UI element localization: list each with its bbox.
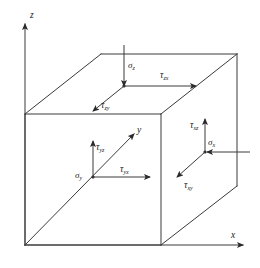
axis-group [25,24,243,245]
tau-yx-label: τyx [120,164,129,175]
edge-top-left-oblique [25,54,101,114]
tau-xz-label: τxz [190,120,199,131]
front-face-stresses: τyz σy τyx [75,141,150,181]
y-axis-line [25,134,134,245]
edge-bottom-right-oblique [161,186,237,245]
tau-zx-label: τzx [160,70,169,81]
right-face-stresses: τxz σx τxy [177,119,250,191]
tau-xy-label: τxy [184,180,193,191]
sigma-z-label: σz [128,60,135,71]
tau-yz-label: τyz [96,142,105,153]
stress-cube-diagram: σz τzx τzy τyz σy τyx [0,0,260,268]
tau-xy-arrow [177,152,205,177]
tau-zy-label: τzy [101,100,110,111]
z-axis-label: z [29,10,34,20]
edge-top-right-oblique [161,54,237,114]
sigma-y-label: σy [75,170,82,181]
top-face-stresses: σz τzx τzy [93,45,196,111]
y-axis-label: y [136,125,142,135]
stress-cube-figure: σz τzx τzy τyz σy τyx [0,0,260,268]
sigma-x-label: σx [208,137,215,148]
x-axis-label: x [230,230,236,240]
